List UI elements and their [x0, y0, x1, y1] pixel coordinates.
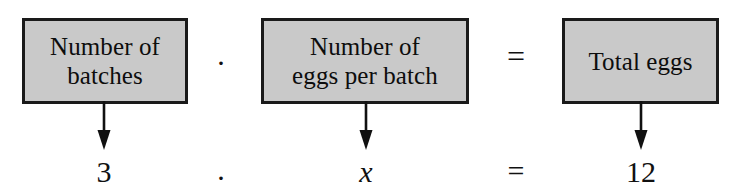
equation-value-total-eggs: 12 — [610, 157, 672, 187]
verbal-model-box-total-eggs: Total eggs — [562, 18, 719, 104]
down-arrow-icon-batches — [96, 101, 112, 151]
down-arrow-icon-total-eggs — [633, 101, 649, 151]
equals-sign-top: = — [498, 40, 534, 72]
box-batches-line-2: batches — [67, 61, 143, 90]
verbal-model-equation-diagram: Number of batches · Number of eggs per b… — [0, 0, 738, 195]
equation-variable-x: x — [336, 157, 396, 187]
box-batches-line-1: Number of — [50, 32, 160, 61]
equation-value-batches: 3 — [74, 157, 134, 187]
box-eggs-per-batch-line-2: eggs per batch — [292, 61, 438, 90]
box-eggs-per-batch-line-1: Number of — [310, 32, 420, 61]
multiplication-dot-bottom: · — [210, 163, 232, 193]
verbal-model-box-eggs-per-batch: Number of eggs per batch — [261, 18, 469, 104]
multiplication-dot-top: · — [210, 48, 232, 78]
verbal-model-box-batches: Number of batches — [22, 18, 188, 104]
equals-sign-bottom: = — [498, 156, 534, 186]
down-arrow-icon-eggs-per-batch — [358, 101, 374, 151]
box-total-eggs-line-1: Total eggs — [588, 47, 692, 76]
